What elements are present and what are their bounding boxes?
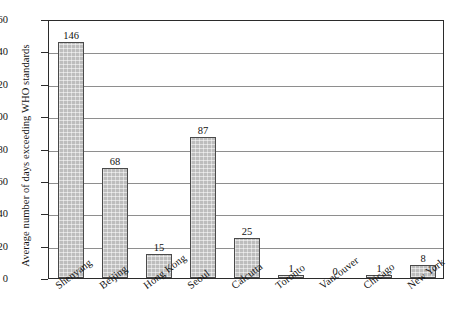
gridline [49, 151, 443, 152]
gridline [49, 86, 443, 87]
bar [190, 137, 216, 278]
bar-value-label: 25 [225, 227, 269, 238]
y-tick-mark [41, 85, 48, 86]
bar [102, 168, 128, 278]
y-tick-mark [41, 20, 48, 21]
y-tick-label: 120 [0, 80, 8, 91]
bar-value-label: 87 [181, 126, 225, 137]
y-tick-label: 140 [0, 47, 8, 58]
y-axis-title: Average number of days exceeding WHO sta… [20, 21, 31, 291]
y-tick-label: 160 [0, 15, 8, 26]
y-tick-label: 80 [0, 145, 8, 156]
y-tick-mark [41, 52, 48, 53]
bar-value-label: 15 [137, 243, 181, 254]
y-tick-mark [41, 150, 48, 151]
y-tick-label: 100 [0, 112, 8, 123]
plot-area: 146681587251018 [48, 20, 444, 279]
gridline [49, 118, 443, 119]
bar [58, 42, 84, 278]
y-tick-label: 40 [0, 209, 8, 220]
y-tick-mark [41, 214, 48, 215]
bar-chart-figure: Average number of days exceeding WHO sta… [0, 0, 459, 331]
y-tick-label: 0 [0, 274, 8, 285]
y-tick-label: 60 [0, 177, 8, 188]
y-tick-mark [41, 247, 48, 248]
bar-value-label: 146 [49, 31, 93, 42]
bar-value-label: 68 [93, 157, 137, 168]
gridline [49, 53, 443, 54]
y-tick-mark [41, 182, 48, 183]
y-tick-label: 20 [0, 242, 8, 253]
y-tick-mark [41, 279, 48, 280]
y-tick-mark [41, 117, 48, 118]
